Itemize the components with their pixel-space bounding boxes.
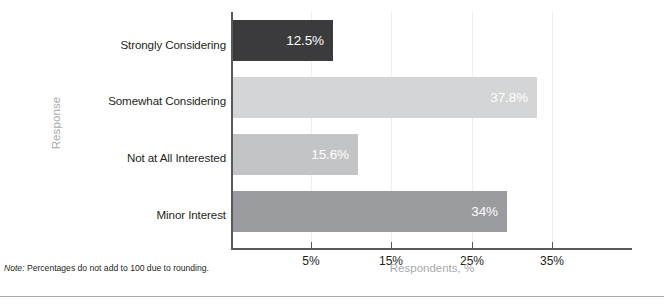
footnote: Note: Percentages do not add to 100 due … (4, 263, 209, 273)
bar-minor-interest: 34% (232, 191, 507, 232)
x-tick-35 (552, 242, 553, 249)
bar-strongly-considering: 12.5% (232, 20, 333, 61)
category-label-not-at-all-interested: Not at All Interested (108, 151, 226, 164)
footnote-prefix: Note: (4, 263, 25, 273)
x-axis-title: Respondents, % (232, 262, 632, 274)
category-label-minor-interest: Minor Interest (108, 208, 226, 221)
category-label-somewhat-considering: Somewhat Considering (108, 94, 226, 107)
x-tick-15 (391, 242, 392, 249)
x-tick-25 (472, 242, 473, 249)
y-axis-title: Response (50, 78, 66, 168)
bar-value-minor-interest: 34% (471, 204, 507, 219)
bar-somewhat-considering: 37.8% (232, 77, 537, 118)
bar-value-not-at-all-interested: 15.6% (311, 147, 358, 162)
bar-value-somewhat-considering: 37.8% (490, 90, 537, 105)
bar-value-strongly-considering: 12.5% (286, 33, 333, 48)
plot-area: 12.5% 37.8% 15.6% 34% 5% 15% 25% 35% (232, 12, 632, 248)
bar-chart: Response Strongly Considering Somewhat C… (0, 0, 664, 306)
x-tick-5 (311, 242, 312, 249)
bar-not-at-all-interested: 15.6% (232, 134, 358, 175)
bottom-divider (0, 296, 664, 297)
x-axis-line (231, 248, 632, 250)
footnote-text: Percentages do not add to 100 due to rou… (25, 263, 209, 273)
category-axis-labels: Strongly Considering Somewhat Considerin… (108, 12, 226, 248)
category-label-strongly-considering: Strongly Considering (108, 38, 226, 51)
gridline-35 (552, 12, 553, 248)
y-axis-line (231, 12, 233, 248)
